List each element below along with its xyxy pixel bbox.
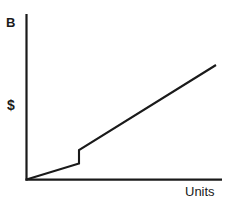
x-axis-label: Units xyxy=(185,185,215,198)
step-cost-line xyxy=(27,65,217,180)
chart-container: B $ Units xyxy=(0,0,226,200)
y-axis-top-label: B xyxy=(6,16,15,29)
chart-plot-area xyxy=(0,0,226,200)
y-axis-label: $ xyxy=(7,98,15,112)
